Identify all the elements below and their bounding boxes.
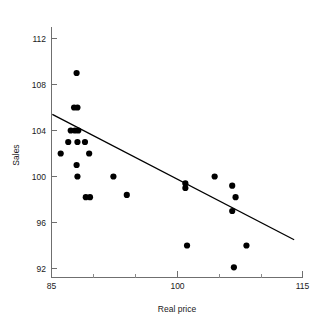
x-tick-label-85: 85 bbox=[47, 281, 57, 291]
data-point bbox=[65, 139, 71, 145]
data-point bbox=[231, 264, 237, 270]
data-point bbox=[243, 242, 249, 248]
y-tick-label-100: 100 bbox=[32, 172, 46, 182]
y-axis-ticks bbox=[52, 39, 58, 269]
data-point bbox=[74, 173, 80, 179]
data-point bbox=[74, 70, 80, 76]
data-point bbox=[82, 139, 88, 145]
scatter-plot-figure: 112 108 104 100 96 92 85 100 115 Real pr bbox=[0, 0, 321, 328]
y-axis-title: Sales bbox=[11, 144, 21, 165]
y-tick-label-92: 92 bbox=[37, 264, 47, 274]
y-tick-label-112: 112 bbox=[32, 34, 46, 44]
data-point bbox=[74, 104, 80, 110]
data-point bbox=[229, 183, 235, 189]
data-point bbox=[232, 194, 238, 200]
data-point bbox=[58, 150, 64, 156]
regression-line bbox=[52, 114, 294, 239]
data-point bbox=[87, 194, 93, 200]
data-point bbox=[86, 150, 92, 156]
x-axis-title: Real price bbox=[158, 304, 197, 314]
data-point bbox=[75, 127, 81, 133]
plot-canvas: 112 108 104 100 96 92 85 100 115 Real pr bbox=[0, 0, 321, 328]
y-tick-label-96: 96 bbox=[37, 218, 47, 228]
x-axis-ticks bbox=[52, 271, 303, 278]
x-tick-label-100: 100 bbox=[170, 281, 184, 291]
y-tick-label-108: 108 bbox=[32, 80, 46, 90]
y-axis-tick-labels: 112 108 104 100 96 92 bbox=[32, 34, 46, 274]
y-tick-label-104: 104 bbox=[32, 126, 46, 136]
data-point bbox=[212, 173, 218, 179]
data-points-group bbox=[58, 70, 250, 271]
data-point bbox=[74, 139, 80, 145]
x-tick-label-115: 115 bbox=[296, 281, 310, 291]
x-axis-tick-labels: 85 100 115 bbox=[47, 281, 310, 291]
data-point bbox=[74, 162, 80, 168]
data-point bbox=[184, 242, 190, 248]
data-point bbox=[110, 173, 116, 179]
data-point bbox=[229, 208, 235, 214]
data-point bbox=[124, 192, 130, 198]
data-point bbox=[182, 185, 188, 191]
